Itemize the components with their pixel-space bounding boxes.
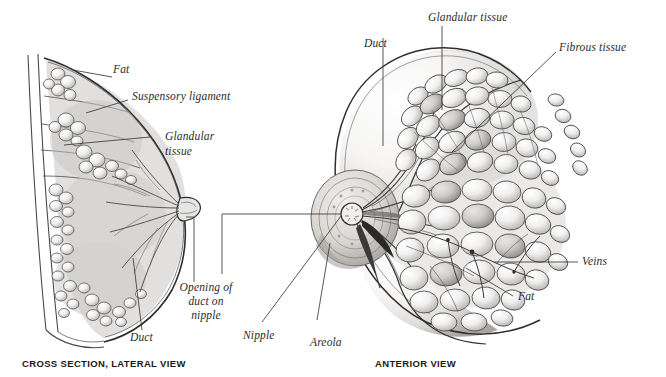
label-suspensory-ligament: Suspensory ligament — [132, 90, 230, 104]
label-glandular-tissue-right: Glandular tissue — [428, 11, 507, 25]
label-opening-line1: Opening of — [170, 281, 242, 295]
label-areola: Areola — [310, 336, 342, 350]
label-opening-line2: duct on — [170, 295, 242, 309]
label-veins: Veins — [582, 255, 607, 269]
caption-anterior-view: ANTERIOR VIEW — [375, 358, 456, 369]
leader-opening — [186, 217, 194, 282]
label-duct-right: Duct — [364, 37, 387, 51]
label-fat-left: Fat — [113, 63, 129, 77]
anterior-view-drawing — [311, 48, 590, 344]
nipple-shape — [341, 203, 363, 225]
label-fat-right: Fat — [518, 290, 534, 304]
label-fibrous-tissue: Fibrous tissue — [559, 41, 626, 55]
label-opening-line3: nipple — [170, 309, 242, 323]
caption-lateral-view: CROSS SECTION, LATERAL VIEW — [22, 358, 186, 369]
label-glandular-tissue-left-line2: tissue — [165, 145, 192, 159]
anatomy-figure: Fat Suspensory ligament Glandular tissue… — [0, 0, 666, 377]
label-nipple: Nipple — [243, 329, 275, 343]
illustration-svg — [0, 0, 666, 377]
label-glandular-tissue-left-line1: Glandular — [165, 130, 214, 144]
leader-nipple-2 — [262, 216, 341, 322]
label-duct-left: Duct — [130, 331, 153, 345]
